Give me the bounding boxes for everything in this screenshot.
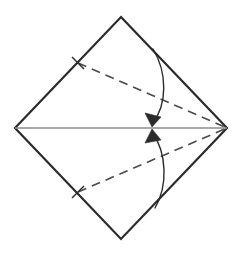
origami-diagram: Origami fold step: fold left corners to …	[0, 0, 241, 261]
origami-figure-svg: Origami fold step: fold left corners to …	[0, 0, 241, 261]
